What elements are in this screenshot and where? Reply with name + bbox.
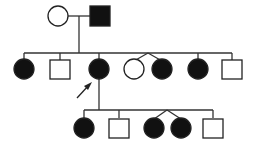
male-unaffected-II-2	[50, 60, 70, 79]
female-unaffected-I-1	[48, 6, 68, 26]
pedigree-chart	[0, 0, 257, 147]
female-affected-proband-II-3	[89, 59, 109, 79]
female-unaffected-twin-II-4	[124, 59, 144, 79]
female-affected-II-6	[188, 59, 208, 79]
female-affected-III-1	[74, 118, 94, 138]
female-affected-twin-III-4	[171, 118, 191, 138]
female-affected-twin-II-5	[152, 59, 172, 79]
proband-arrow-icon	[77, 82, 92, 98]
female-affected-twin-III-3	[144, 118, 164, 138]
male-unaffected-III-5	[203, 119, 223, 138]
male-unaffected-II-7	[222, 60, 242, 79]
male-unaffected-III-2	[109, 119, 129, 138]
female-affected-II-1	[14, 59, 34, 79]
male-affected-I-2	[90, 6, 110, 26]
